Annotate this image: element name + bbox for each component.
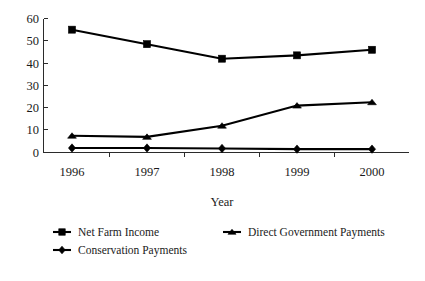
chart-background — [0, 0, 425, 281]
y-tick-label: 10 — [27, 123, 40, 137]
y-tick-label: 30 — [27, 79, 40, 93]
data-point — [69, 26, 76, 33]
legend-label: Direct Government Payments — [248, 226, 385, 239]
legend-label: Conservation Payments — [78, 244, 187, 257]
data-point — [294, 52, 301, 59]
legend-label: Net Farm Income — [78, 226, 159, 238]
y-tick-label: 20 — [27, 101, 40, 115]
x-tick-label: 1998 — [210, 165, 235, 179]
y-tick-label: 0 — [33, 146, 39, 160]
y-tick-label: 50 — [27, 34, 40, 48]
x-tick-label: 2000 — [360, 165, 385, 179]
data-point — [369, 46, 376, 53]
x-tick-label: 1996 — [60, 165, 85, 179]
data-point — [219, 55, 226, 62]
line-chart: 60 50 40 30 20 10 0 1996 1997 1998 1999 … — [0, 0, 425, 281]
data-point — [144, 41, 151, 48]
legend-item-direct-government-payments[interactable]: Direct Government Payments — [223, 226, 385, 239]
x-tick-label: 1997 — [135, 165, 160, 179]
y-tick-label: 40 — [27, 57, 40, 71]
chart-canvas: 60 50 40 30 20 10 0 1996 1997 1998 1999 … — [0, 0, 425, 281]
y-tick-label: 60 — [27, 12, 40, 26]
x-tick-label: 1999 — [285, 165, 310, 179]
legend-marker-square-icon — [59, 229, 65, 235]
x-axis-title: Year — [210, 195, 234, 209]
